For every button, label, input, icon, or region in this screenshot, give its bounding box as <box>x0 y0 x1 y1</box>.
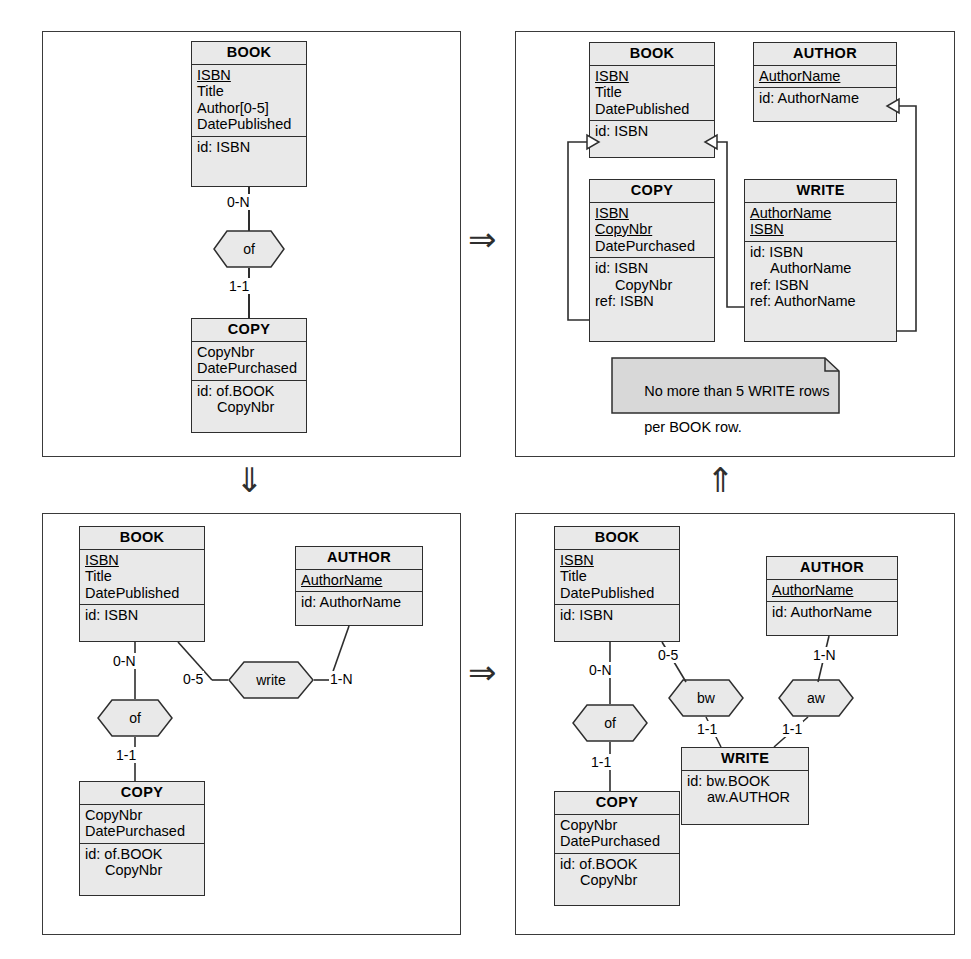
entity-title: WRITE <box>682 748 808 771</box>
relationship-bw[interactable]: bw <box>668 679 744 717</box>
table-title: COPY <box>590 180 714 203</box>
constraint-id-line2: AuthorName <box>750 260 891 277</box>
attribute-title: Title <box>85 568 199 585</box>
attribute-list: CopyNbr DatePurchased <box>80 805 204 843</box>
identifier-id-line1: id: bw.BOOK <box>687 773 803 790</box>
column-list: ISBN Title DatePublished <box>590 66 714 121</box>
relationship-of[interactable]: of <box>97 699 173 737</box>
column-datepublished: DatePublished <box>595 101 709 118</box>
attribute-copynbr: CopyNbr <box>85 807 199 824</box>
entity-write[interactable]: WRITE id: bw.BOOK aw.AUTHOR <box>681 747 809 825</box>
relationship-of[interactable]: of <box>572 704 648 742</box>
relationship-label: bw <box>668 679 744 717</box>
identifier-id-line2: aw.AUTHOR <box>687 789 803 806</box>
relationship-label: aw <box>778 679 854 717</box>
cardinality-1-1: 1-1 <box>228 278 250 294</box>
attribute-isbn: ISBN <box>560 552 594 568</box>
entity-title: COPY <box>555 792 679 815</box>
relationship-aw[interactable]: aw <box>778 679 854 717</box>
attribute-list: CopyNbr DatePurchased <box>192 342 306 380</box>
attribute-list: AuthorName <box>767 580 897 602</box>
identifier-list: id: AuthorName <box>296 591 422 614</box>
attribute-list: AuthorName <box>296 570 422 592</box>
entity-title: COPY <box>192 319 306 342</box>
table-title: BOOK <box>590 43 714 66</box>
constraint-list: id: ISBN CopyNbr ref: ISBN <box>590 257 714 313</box>
attribute-authorname: AuthorName <box>301 572 382 588</box>
entity-author[interactable]: AUTHOR AuthorName id: AuthorName <box>295 546 423 626</box>
panel-3-conceptual-with-write-rel: BOOK ISBN Title DatePublished id: ISBN A… <box>42 513 461 935</box>
identifier-list: id: AuthorName <box>767 601 897 624</box>
entity-book[interactable]: BOOK ISBN Title Author[0-5] DatePublishe… <box>191 41 307 187</box>
attribute-list: CopyNbr DatePurchased <box>555 815 679 853</box>
relationship-write[interactable]: write <box>228 661 314 699</box>
constraint-ref-isbn: ref: ISBN <box>750 277 891 294</box>
constraint-id-line2: CopyNbr <box>595 277 709 294</box>
cardinality-write-author: 1-N <box>329 671 354 687</box>
entity-copy[interactable]: COPY CopyNbr DatePurchased id: of.BOOK C… <box>79 781 205 896</box>
constraint-ref: ref: ISBN <box>595 293 709 310</box>
table-write[interactable]: WRITE AuthorName ISBN id: ISBN AuthorNam… <box>744 179 897 342</box>
entity-book[interactable]: BOOK ISBN Title DatePublished id: ISBN <box>554 526 680 642</box>
column-list: AuthorName ISBN <box>745 203 896 241</box>
table-book[interactable]: BOOK ISBN Title DatePublished id: ISBN <box>589 42 715 158</box>
relationship-of[interactable]: of <box>213 230 285 268</box>
cardinality-of-book: 0-N <box>588 662 613 678</box>
constraint-list: id: ISBN AuthorName ref: ISBN ref: Autho… <box>745 241 896 313</box>
entity-copy[interactable]: COPY CopyNbr DatePurchased id: of.BOOK C… <box>191 318 307 433</box>
table-title: AUTHOR <box>754 43 896 66</box>
column-datepurchased: DatePurchased <box>595 238 709 255</box>
table-author[interactable]: AUTHOR AuthorName id: AuthorName <box>753 42 897 122</box>
identifier-id: id: AuthorName <box>772 604 892 621</box>
write-cardinality-note[interactable]: No more than 5 WRITE rows per BOOK row. <box>611 357 840 414</box>
identifier-list: id: ISBN <box>555 604 679 627</box>
cardinality-of-copy: 1-1 <box>590 754 612 770</box>
identifier-list: id: ISBN <box>80 604 204 627</box>
cardinality-of-copy: 1-1 <box>115 747 137 763</box>
column-title: Title <box>595 84 709 101</box>
entity-title: AUTHOR <box>767 557 897 580</box>
cardinality-bw-book: 0-5 <box>657 647 679 663</box>
column-isbn: ISBN <box>595 68 629 84</box>
entity-title: BOOK <box>192 42 306 65</box>
panel-2-relational-schema: BOOK ISBN Title DatePublished id: ISBN A… <box>515 31 955 457</box>
attribute-isbn: ISBN <box>85 552 119 568</box>
identifier-id: id: ISBN <box>197 139 301 156</box>
relationship-label: write <box>228 661 314 699</box>
table-copy[interactable]: COPY ISBN CopyNbr DatePurchased id: ISBN… <box>589 179 715 342</box>
note-line-1: No more than 5 WRITE rows <box>644 383 829 399</box>
cardinality-write-book: 0-5 <box>182 671 204 687</box>
identifier-list: id: of.BOOK CopyNbr <box>555 853 679 892</box>
attribute-list: ISBN Title DatePublished <box>80 550 204 605</box>
entity-copy[interactable]: COPY CopyNbr DatePurchased id: of.BOOK C… <box>554 791 680 906</box>
identifier-list: id: of.BOOK CopyNbr <box>80 843 204 882</box>
cardinality-0-N: 0-N <box>226 194 251 210</box>
attribute-title: Title <box>560 568 674 585</box>
relationship-label: of <box>572 704 648 742</box>
attribute-author: Author[0-5] <box>197 100 301 117</box>
column-list: AuthorName <box>754 66 896 88</box>
column-isbn: ISBN <box>595 205 629 221</box>
transform-arrow-down-left: ⇓ <box>235 463 264 497</box>
attribute-isbn: ISBN <box>197 67 231 83</box>
entity-book[interactable]: BOOK ISBN Title DatePublished id: ISBN <box>79 526 205 642</box>
attribute-datepurchased: DatePurchased <box>197 360 301 377</box>
identifier-list: id: bw.BOOK aw.AUTHOR <box>682 771 808 809</box>
identifier-id: id: ISBN <box>85 607 199 624</box>
transform-arrow-right-bottom: ⇒ <box>468 655 497 689</box>
identifier-id-line1: id: of.BOOK <box>85 846 199 863</box>
relationship-label: of <box>213 230 285 268</box>
column-list: ISBN CopyNbr DatePurchased <box>590 203 714 258</box>
constraint-list: id: ISBN <box>590 120 714 143</box>
cardinality-of-book: 0-N <box>112 653 137 669</box>
identifier-id-line1: id: of.BOOK <box>560 856 674 873</box>
cardinality-aw-write: 1-1 <box>781 721 803 737</box>
attribute-list: ISBN Title DatePublished <box>555 550 679 605</box>
identifier-list: id: of.BOOK CopyNbr <box>192 380 306 419</box>
identifier-id: id: AuthorName <box>301 594 417 611</box>
constraint-ref-authorname: ref: AuthorName <box>750 293 891 310</box>
entity-author[interactable]: AUTHOR AuthorName id: AuthorName <box>766 556 898 636</box>
column-authorname: AuthorName <box>750 205 831 221</box>
column-isbn: ISBN <box>750 221 784 237</box>
entity-title: AUTHOR <box>296 547 422 570</box>
